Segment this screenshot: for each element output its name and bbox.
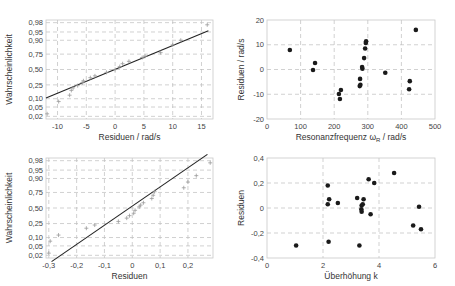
data-point — [339, 88, 344, 93]
x-tick-label: 0 — [265, 122, 269, 131]
y-tick-label: 0,95 — [28, 28, 43, 37]
x-tick-label: -10 — [52, 122, 63, 131]
x-axis-label: Resonanzfrequenz ωR / rad/s — [296, 132, 407, 143]
x-tick-label: 10 — [169, 122, 177, 131]
y-tick-label: 0,10 — [28, 94, 43, 103]
x-tick-label: 0 — [130, 261, 134, 270]
data-point — [408, 79, 413, 84]
data-point-plus — [205, 23, 209, 27]
y-tick-label: -0,4 — [251, 254, 264, 263]
x-axis-label: Residuen / rad/s — [99, 132, 161, 142]
y-tick-label: -20 — [253, 115, 264, 124]
data-point — [392, 171, 397, 176]
x-axis-label: Residuen — [112, 271, 148, 281]
y-tick-label: 0,75 — [28, 50, 43, 59]
data-point — [325, 202, 330, 207]
y-tick-label: 0,98 — [28, 18, 43, 27]
x-tick-label: 4 — [377, 261, 381, 270]
data-point-plus — [116, 219, 120, 223]
data-point — [372, 181, 377, 186]
y-tick-label: 0,95 — [28, 166, 43, 175]
data-point — [362, 56, 367, 61]
y-tick-label: 20 — [256, 16, 264, 25]
x-tick-label: 0,1 — [155, 261, 165, 270]
data-point — [325, 183, 330, 188]
data-point — [360, 202, 365, 207]
x-tick-label: 500 — [429, 122, 442, 131]
chart-bottom-right: 0246-0,4-0,200,20,4Überhöhung kResiduen — [228, 143, 455, 286]
data-point — [338, 97, 343, 102]
data-point — [419, 227, 424, 232]
plot-area — [267, 158, 435, 258]
y-tick-label: -10 — [253, 90, 264, 99]
plot-area — [45, 20, 213, 119]
y-tick-label: 0,50 — [28, 65, 43, 74]
normal-probability-plot-k: -0,3-0,2-0,100,10,20,020,050,100,250,500… — [0, 143, 228, 286]
data-point-plus — [113, 68, 117, 72]
y-tick-label: 0,50 — [28, 204, 43, 213]
x-tick-label: -0,1 — [98, 261, 111, 270]
data-point — [337, 92, 342, 97]
data-point — [326, 239, 331, 244]
data-point — [355, 196, 360, 201]
plot-area — [46, 154, 213, 261]
x-tick-label: 100 — [294, 122, 307, 131]
data-point-plus — [121, 62, 125, 66]
y-axis-label: Wahrscheinlichkeit — [4, 34, 14, 105]
chart-bottom-left: -0,3-0,2-0,100,10,20,020,050,100,250,500… — [0, 143, 228, 286]
x-tick-label: 15 — [197, 122, 205, 131]
data-point-plus — [208, 161, 212, 165]
data-point — [414, 28, 419, 33]
y-tick-label: 0,05 — [28, 103, 43, 112]
y-tick-label: 0,02 — [28, 112, 43, 121]
y-tick-label: 0,02 — [28, 251, 43, 260]
data-point — [363, 46, 368, 51]
y-tick-label: 0,75 — [28, 188, 43, 197]
data-point-plus — [182, 186, 186, 190]
y-tick-label: 0 — [260, 204, 264, 213]
x-tick-label: -0,3 — [42, 261, 55, 270]
y-tick-label: 0,25 — [28, 219, 43, 228]
y-tick-label: 0,10 — [28, 233, 43, 242]
data-point-plus — [128, 214, 132, 218]
x-tick-label: 300 — [362, 122, 375, 131]
y-tick-label: 0,2 — [254, 179, 264, 188]
x-axis-label: Überhöhung k — [324, 271, 378, 281]
data-point — [417, 204, 422, 209]
x-tick-label: -5 — [83, 122, 90, 131]
x-tick-label: 0 — [113, 122, 117, 131]
x-tick-label: 200 — [328, 122, 341, 131]
data-point — [407, 87, 412, 92]
data-point — [313, 61, 318, 66]
y-axis-label: Residuen / rad/s — [236, 39, 246, 101]
data-point — [360, 66, 365, 71]
data-point — [327, 197, 332, 202]
y-tick-label: -0,2 — [251, 229, 264, 238]
data-point — [358, 77, 363, 82]
data-point-plus — [57, 233, 61, 237]
fit-line — [46, 31, 208, 98]
x-tick-label: 400 — [395, 122, 408, 131]
chart-top-left: -10-50510150,020,050,100,250,500,750,900… — [0, 0, 228, 143]
data-point — [357, 243, 362, 248]
data-point — [311, 68, 316, 73]
data-point — [411, 223, 416, 228]
y-tick-label: 0,25 — [28, 81, 43, 90]
y-axis-label: Residuen — [236, 190, 246, 226]
x-tick-label: -0,2 — [70, 261, 83, 270]
data-point-plus — [68, 93, 72, 97]
x-tick-label: 5 — [142, 122, 146, 131]
data-point — [364, 39, 369, 44]
data-point — [336, 201, 341, 206]
y-tick-label: 0,05 — [28, 242, 43, 251]
y-tick-label: 10 — [256, 40, 264, 49]
data-point — [361, 197, 366, 202]
data-point — [368, 212, 373, 217]
x-tick-label: 0 — [265, 261, 269, 270]
plot-area — [267, 20, 435, 119]
data-point-plus — [141, 201, 145, 205]
data-point-plus — [186, 180, 190, 184]
y-tick-label: 0,90 — [28, 36, 43, 45]
data-point — [366, 177, 371, 182]
y-tick-label: 0,98 — [28, 156, 43, 165]
